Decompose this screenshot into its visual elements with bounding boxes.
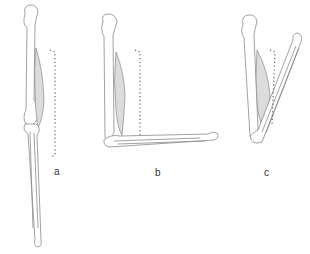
label-c: c xyxy=(264,167,269,178)
panel-b-arm xyxy=(102,14,218,147)
dotted-line-a xyxy=(50,50,55,157)
dotted-line-b xyxy=(135,50,140,135)
arm-diagram xyxy=(0,0,310,254)
forearm-a xyxy=(24,124,41,247)
biceps-a xyxy=(35,48,44,128)
label-b: b xyxy=(155,167,161,178)
label-a: a xyxy=(54,166,60,177)
biceps-b xyxy=(115,52,126,135)
panel-c-arm xyxy=(242,15,302,143)
panel-a-arm xyxy=(24,5,55,247)
humerus-c xyxy=(242,15,258,136)
